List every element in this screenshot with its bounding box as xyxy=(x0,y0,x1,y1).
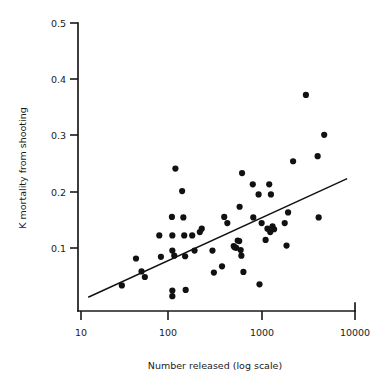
y-axis-tick-labels: 0.1 0.2 0.3 0.4 0.5 xyxy=(51,18,66,254)
data-point xyxy=(183,287,189,293)
data-point xyxy=(156,232,162,238)
data-point xyxy=(169,232,175,238)
x-tick-label-1000: 1000 xyxy=(250,327,274,338)
data-point xyxy=(142,274,148,280)
data-point xyxy=(224,220,230,226)
data-point xyxy=(169,214,175,220)
data-point xyxy=(240,269,246,275)
data-point xyxy=(138,268,144,274)
x-axis-tick-labels: 10 100 1000 10000 xyxy=(75,327,370,338)
data-point xyxy=(119,282,125,288)
plot-canvas: 0.1 0.2 0.3 0.4 0.5 10 100 1000 10000 K … xyxy=(0,0,383,378)
data-point xyxy=(236,204,242,210)
data-point xyxy=(172,165,178,171)
data-point xyxy=(171,253,177,259)
x-tick-label-100: 100 xyxy=(159,327,177,338)
data-point xyxy=(271,226,277,232)
data-points-group xyxy=(119,92,328,299)
y-tick-label-0.5: 0.5 xyxy=(51,18,66,29)
data-point xyxy=(191,248,197,254)
data-point xyxy=(209,248,215,254)
y-tick-label-0.1: 0.1 xyxy=(51,243,66,254)
data-point xyxy=(263,237,269,243)
data-point xyxy=(182,253,188,259)
x-axis-ticks xyxy=(81,311,355,320)
data-point xyxy=(236,238,242,244)
data-point xyxy=(321,132,327,138)
data-point xyxy=(133,255,139,261)
data-point xyxy=(256,281,262,287)
data-point xyxy=(266,181,272,187)
data-point xyxy=(199,226,205,232)
data-point xyxy=(239,170,245,176)
data-point xyxy=(283,242,289,248)
x-axis-title: Number released (log scale) xyxy=(148,360,282,371)
data-point xyxy=(282,220,288,226)
data-point xyxy=(181,232,187,238)
data-point xyxy=(158,254,164,260)
data-point xyxy=(303,92,309,98)
scatter-plot-figure: 0.1 0.2 0.3 0.4 0.5 10 100 1000 10000 K … xyxy=(0,0,383,378)
data-point xyxy=(189,232,195,238)
data-point xyxy=(169,293,175,299)
data-point xyxy=(315,153,321,159)
data-point xyxy=(238,253,244,259)
data-point xyxy=(238,247,244,253)
y-axis-title: K mortality from shooting xyxy=(17,107,28,229)
data-point xyxy=(250,214,256,220)
data-point xyxy=(169,287,175,293)
y-tick-label-0.3: 0.3 xyxy=(51,130,66,141)
data-point xyxy=(316,214,322,220)
regression-line xyxy=(88,179,347,298)
x-tick-label-10000: 10000 xyxy=(340,327,370,338)
data-point xyxy=(219,263,225,269)
data-point xyxy=(290,158,296,164)
data-point xyxy=(285,209,291,215)
y-tick-label-0.4: 0.4 xyxy=(51,74,66,85)
data-point xyxy=(211,269,217,275)
data-point xyxy=(180,214,186,220)
data-point xyxy=(256,191,262,197)
data-point xyxy=(268,191,274,197)
y-axis-ticks xyxy=(70,23,78,248)
x-tick-label-10: 10 xyxy=(75,327,87,338)
data-point xyxy=(259,220,265,226)
data-point xyxy=(179,188,185,194)
data-point xyxy=(250,181,256,187)
y-tick-label-0.2: 0.2 xyxy=(51,187,66,198)
data-point xyxy=(221,214,227,220)
